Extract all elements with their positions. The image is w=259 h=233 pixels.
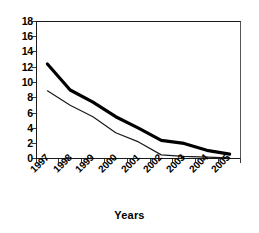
- x-tick-label-2001: 2001: [119, 152, 142, 175]
- x-axis-title: Years: [0, 209, 259, 221]
- x-tick-label-2000: 2000: [96, 152, 119, 175]
- x-tick-label-1998: 1998: [51, 152, 74, 175]
- line-chart: 18 16 14 12 10 8 6 4 2 0 1997 1998 1999 …: [0, 0, 259, 233]
- x-tick-label-1997: 1997: [28, 152, 51, 175]
- x-tick-label-1999: 1999: [73, 152, 96, 175]
- x-axis-labels: 1997 1998 1999 2000 2001 2002 2003 2004 …: [0, 0, 259, 233]
- x-tick-label-2004: 2004: [187, 152, 210, 175]
- x-tick-label-2003: 2003: [164, 152, 187, 175]
- x-tick-label-2002: 2002: [141, 152, 164, 175]
- x-tick-label-2005: 2005: [209, 152, 232, 175]
